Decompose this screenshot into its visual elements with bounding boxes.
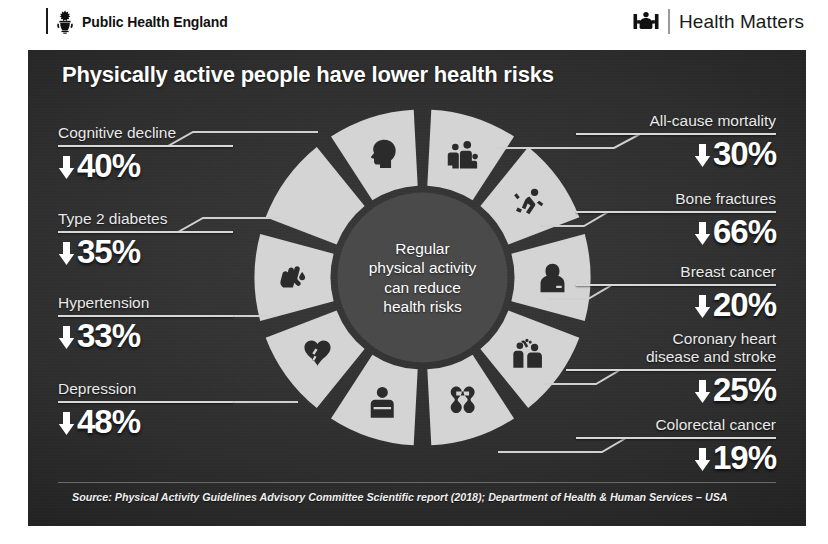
stat-bone-fractures: Bone fractures 66%	[576, 190, 776, 250]
stat-value: 48%	[77, 404, 140, 440]
phe-label: Public Health England	[82, 14, 228, 30]
stat-value-row: 20%	[576, 287, 776, 323]
stat-label: Hypertension	[58, 294, 233, 312]
logo-divider	[668, 9, 670, 34]
stat-label: Breast cancer	[576, 263, 776, 281]
stat-label: Type 2 diabetes	[58, 210, 233, 228]
stat-label: Colorectal cancer	[576, 416, 776, 434]
source-note: Source: Physical Activity Guidelines Adv…	[72, 491, 786, 503]
stat-value-row: 66%	[576, 214, 776, 250]
stat-label-line-1: Coronary heart	[566, 330, 776, 348]
down-arrow-icon	[58, 241, 75, 266]
stat-type-2-diabetes: Type 2 diabetes 35%	[58, 210, 233, 270]
stat-label: Depression	[58, 380, 233, 398]
page-title: Physically active people have lower heal…	[62, 62, 554, 88]
stat-depression: Depression 48%	[58, 380, 233, 440]
stat-value: 33%	[77, 318, 140, 354]
down-arrow-icon	[694, 294, 711, 319]
stat-value-row: 25%	[566, 372, 776, 408]
stat-value: 66%	[713, 214, 776, 250]
stat-label: All-cause mortality	[576, 112, 776, 130]
health-matters-people-icon	[633, 11, 659, 33]
masthead: Public Health England Health Matters	[0, 0, 828, 50]
stat-colorectal-cancer: Colorectal cancer 19%	[576, 416, 776, 476]
down-arrow-icon	[58, 155, 75, 180]
stat-label: Cognitive decline	[58, 124, 233, 142]
stat-value: 19%	[713, 440, 776, 476]
stat-breast-cancer: Breast cancer 20%	[576, 263, 776, 323]
down-arrow-icon	[694, 447, 711, 472]
down-arrow-icon	[694, 143, 711, 168]
phe-left-rule	[46, 8, 48, 34]
stat-value-row: 40%	[58, 148, 233, 184]
stat-value: 35%	[77, 234, 140, 270]
public-health-england-logo: Public Health England	[55, 10, 228, 34]
stat-value: 40%	[77, 148, 140, 184]
stat-value-row: 33%	[58, 318, 233, 354]
health-matters-label: Health Matters	[679, 11, 804, 33]
stat-value-row: 19%	[576, 440, 776, 476]
stat-label: Bone fractures	[576, 190, 776, 208]
stat-value-row: 30%	[576, 136, 776, 172]
stat-value-row: 35%	[58, 234, 233, 270]
stat-all-cause-mortality: All-cause mortality 30%	[576, 112, 776, 172]
infographic-panel: Physically active people have lower heal…	[28, 50, 806, 526]
stat-coronary-heart-disease-and-stroke: Coronary heart disease and stroke 25%	[566, 330, 776, 408]
down-arrow-icon	[58, 325, 75, 350]
source-divider	[58, 482, 776, 483]
stat-hypertension: Hypertension 33%	[58, 294, 233, 354]
health-matters-logo: Health Matters	[633, 9, 804, 34]
down-arrow-icon	[694, 221, 711, 246]
stat-cognitive-decline: Cognitive decline 40%	[58, 124, 233, 184]
stat-value: 20%	[713, 287, 776, 323]
down-arrow-icon	[694, 379, 711, 404]
stat-value: 30%	[713, 136, 776, 172]
stat-value: 25%	[713, 372, 776, 408]
stat-label-line-2: disease and stroke	[566, 348, 776, 366]
down-arrow-icon	[58, 411, 75, 436]
royal-crest-icon	[55, 10, 75, 34]
stat-value-row: 48%	[58, 404, 233, 440]
